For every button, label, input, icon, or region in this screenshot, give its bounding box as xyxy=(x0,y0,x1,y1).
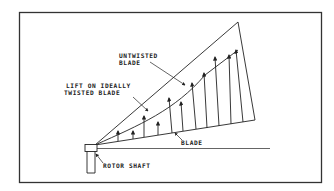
rotor-shaft-leader xyxy=(96,154,103,163)
blade-tip-edge xyxy=(238,22,255,120)
rotor-shaft-label: ROTOR SHAFT xyxy=(103,162,151,169)
lift-label-1: LIFT ON IDEALLY xyxy=(66,82,131,89)
lift-distribution-diagram: UNTWISTED BLADE LIFT ON IDEALLY TWISTED … xyxy=(0,0,334,191)
lift-label-2: TWISTED BLADE xyxy=(64,89,120,96)
untwisted-label-2: BLADE xyxy=(119,59,141,66)
untwisted-label-1: UNTWISTED xyxy=(119,52,158,59)
ideally-twisted-lift-curve xyxy=(95,50,238,145)
blade-label: BLADE xyxy=(181,139,203,146)
figure-frame xyxy=(20,13,322,183)
rotor-hub xyxy=(85,145,97,152)
lift-leader xyxy=(133,97,148,111)
untwisted-leader xyxy=(150,62,185,85)
